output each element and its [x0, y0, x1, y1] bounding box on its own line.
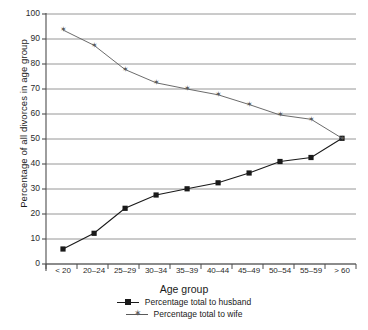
data-point: ✶	[60, 25, 67, 34]
data-point: ✶	[215, 90, 222, 99]
data-point: ✶	[153, 78, 160, 87]
legend-square-marker-icon	[117, 298, 139, 307]
x-tick-label: < 20	[55, 266, 71, 275]
data-point: ✶	[184, 84, 191, 93]
data-point	[60, 246, 65, 251]
x-tick-label: 45–49	[238, 266, 260, 275]
x-tick-label: 40–44	[207, 266, 229, 275]
data-point: ✶	[91, 41, 98, 50]
x-tick-label: 20–24	[83, 266, 105, 275]
legend-label: Percentage total to wife	[154, 309, 243, 319]
data-point	[216, 180, 221, 185]
series-line-husband	[63, 138, 342, 249]
data-point: ✶	[308, 115, 315, 124]
data-point: ✶	[339, 134, 346, 143]
legend-label: Percentage total to husband	[145, 297, 251, 307]
legend-item[interactable]: Percentage total to husband	[117, 297, 251, 307]
data-point: ✶	[246, 100, 253, 109]
data-point	[277, 159, 282, 164]
chart-legend: Percentage total to husband✶Percentage t…	[0, 297, 368, 319]
x-tick-label: 35–39	[176, 266, 198, 275]
series-line-wife	[63, 30, 342, 138]
legend-star-marker-icon: ✶	[126, 310, 148, 319]
x-tick-label: 25–29	[114, 266, 136, 275]
data-point: ✶	[122, 65, 129, 74]
x-axis-tick-labels: < 2020–2425–2930–3435–3940–4445–4950–545…	[0, 264, 368, 280]
legend-item[interactable]: ✶Percentage total to wife	[126, 309, 243, 319]
data-point	[154, 192, 159, 197]
plot-area: ✶✶✶✶✶✶✶✶✶✶	[0, 0, 368, 330]
data-point	[92, 231, 97, 236]
x-tick-label: 50–54	[269, 266, 291, 275]
data-point: ✶	[277, 110, 284, 119]
data-point	[247, 170, 252, 175]
data-point	[185, 186, 190, 191]
x-tick-label: > 60	[334, 266, 350, 275]
data-point	[123, 206, 128, 211]
x-tick-label: 55–59	[300, 266, 322, 275]
x-axis-title: Age group	[0, 283, 368, 295]
x-tick-label: 30–34	[145, 266, 167, 275]
data-point	[308, 155, 313, 160]
chart-figure: Percentage of all divorces in age group …	[0, 0, 368, 330]
